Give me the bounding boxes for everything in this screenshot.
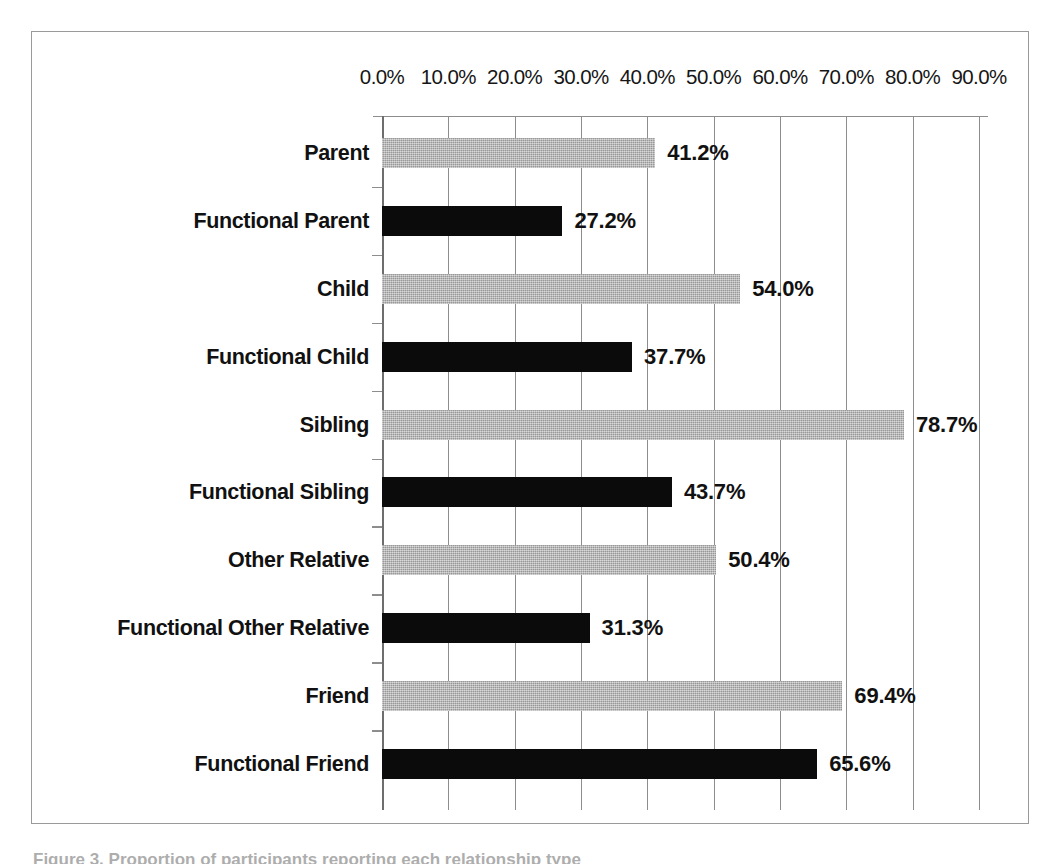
bar[interactable] <box>382 274 740 304</box>
bar[interactable] <box>382 749 817 779</box>
bar-row: 54.0% <box>382 274 979 304</box>
bar-row: 43.7% <box>382 477 979 507</box>
category-label-row: Other Relative <box>32 545 369 575</box>
category-label-row: Friend <box>32 681 369 711</box>
x-tick-label: 30.0% <box>553 64 608 90</box>
bar[interactable] <box>382 613 590 643</box>
bar-value-label: 41.2% <box>667 140 728 166</box>
bar[interactable] <box>382 681 842 711</box>
y-axis-tick <box>372 459 382 461</box>
plot-area: 41.2%27.2%54.0%37.7%78.7%43.7%50.4%31.3%… <box>382 119 979 798</box>
category-label: Friend <box>305 684 369 709</box>
category-label-row: Functional Friend <box>32 749 369 779</box>
category-label-row: Child <box>32 274 369 304</box>
bar-value-label: 37.7% <box>644 344 705 370</box>
category-label: Sibling <box>300 412 369 437</box>
x-tick-label: 60.0% <box>752 64 807 90</box>
bar-value-label: 69.4% <box>854 683 915 709</box>
category-label-row: Functional Parent <box>32 206 369 236</box>
bar[interactable] <box>382 545 716 575</box>
x-tick-label: 70.0% <box>819 64 874 90</box>
y-axis-tick <box>372 323 382 325</box>
x-tick-label: 40.0% <box>620 64 675 90</box>
bar-value-label: 78.7% <box>916 412 977 438</box>
x-tick-label: 10.0% <box>421 64 476 90</box>
y-axis-tick <box>372 187 382 189</box>
y-axis-tick <box>372 391 382 393</box>
category-label-row: Parent <box>32 138 369 168</box>
bar[interactable] <box>382 138 655 168</box>
x-tick-label: 90.0% <box>951 64 1006 90</box>
bar-row: 27.2% <box>382 206 979 236</box>
category-label: Other Relative <box>228 548 369 573</box>
bar-row: 50.4% <box>382 545 979 575</box>
x-axis-tick-labels: 0.0%10.0%20.0%30.0%40.0%50.0%60.0%70.0%8… <box>32 64 1028 90</box>
y-axis-tick <box>372 594 382 596</box>
category-label-row: Sibling <box>32 410 369 440</box>
figure-frame: 0.0%10.0%20.0%30.0%40.0%50.0%60.0%70.0%8… <box>31 31 1029 824</box>
bar-value-label: 54.0% <box>752 276 813 302</box>
bar[interactable] <box>382 410 904 440</box>
category-label: Parent <box>304 140 369 165</box>
bar-value-label: 50.4% <box>728 547 789 573</box>
category-label-row: Functional Child <box>32 342 369 372</box>
category-label-row: Functional Sibling <box>32 477 369 507</box>
category-label: Functional Sibling <box>189 480 369 505</box>
bar-row: 31.3% <box>382 613 979 643</box>
figure-caption: Figure 3. Proportion of participants rep… <box>33 849 673 864</box>
plot-top-rule <box>373 116 988 117</box>
y-axis-tick <box>372 730 382 732</box>
category-label: Functional Parent <box>193 208 369 233</box>
category-label-row: Functional Other Relative <box>32 613 369 643</box>
x-tick-label: 50.0% <box>686 64 741 90</box>
bar-row: 37.7% <box>382 342 979 372</box>
gridline <box>979 116 980 810</box>
bar-row: 69.4% <box>382 681 979 711</box>
bar-chart: 0.0%10.0%20.0%30.0%40.0%50.0%60.0%70.0%8… <box>32 32 1028 823</box>
category-label: Functional Other Relative <box>117 616 369 641</box>
bar-row: 41.2% <box>382 138 979 168</box>
y-axis-tick <box>372 662 382 664</box>
bar-row: 78.7% <box>382 410 979 440</box>
y-axis-category-labels: ParentFunctional ParentChildFunctional C… <box>32 119 369 798</box>
bar-value-label: 65.6% <box>829 751 890 777</box>
category-label: Functional Friend <box>195 752 369 777</box>
bar-row: 65.6% <box>382 749 979 779</box>
x-tick-label: 0.0% <box>360 64 404 90</box>
bar-value-label: 31.3% <box>602 615 663 641</box>
x-tick-label: 20.0% <box>487 64 542 90</box>
bar[interactable] <box>382 206 562 236</box>
y-axis-tick <box>372 255 382 257</box>
bar-value-label: 43.7% <box>684 479 745 505</box>
bar[interactable] <box>382 342 632 372</box>
bar-value-label: 27.2% <box>574 208 635 234</box>
x-tick-label: 80.0% <box>885 64 940 90</box>
bar[interactable] <box>382 477 672 507</box>
category-label: Functional Child <box>206 344 369 369</box>
y-axis-tick <box>372 526 382 528</box>
category-label: Child <box>317 276 369 301</box>
